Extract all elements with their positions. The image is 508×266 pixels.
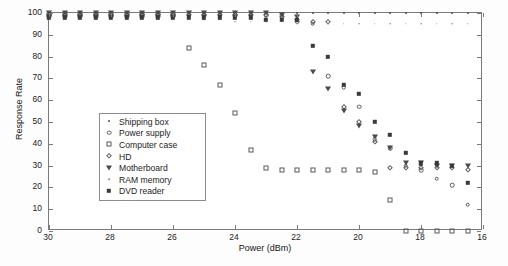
- y-tick-label: 70: [33, 72, 42, 82]
- x-tick-label: 18: [415, 232, 424, 242]
- legend-item-dvd-reader[interactable]: DVD reader: [100, 186, 205, 198]
- data-point: [451, 23, 453, 25]
- data-point: [420, 23, 422, 25]
- data-point: [436, 12, 438, 14]
- x-axis-label: Power (dBm): [48, 243, 482, 253]
- data-point: [140, 15, 144, 19]
- data-point: [234, 21, 236, 23]
- data-point: [343, 12, 345, 14]
- x-tick-label: 26: [167, 232, 176, 242]
- y-tick: [49, 57, 53, 58]
- data-point: [217, 82, 222, 87]
- y-tick-right: [477, 209, 481, 210]
- data-point: [465, 163, 471, 168]
- data-point: [372, 120, 376, 124]
- legend-item-label: Computer case: [119, 140, 177, 150]
- legend-item-power-supply[interactable]: Power supply: [100, 128, 205, 140]
- y-tick-right: [477, 187, 481, 188]
- y-tick-right: [477, 144, 481, 145]
- x-tick: [111, 225, 112, 229]
- data-point: [405, 23, 407, 25]
- data-point: [405, 12, 407, 14]
- data-point: [341, 167, 346, 172]
- x-tick: [421, 225, 422, 229]
- marker-glyph: [107, 189, 111, 193]
- marker-glyph: [108, 178, 110, 180]
- legend-item-hd[interactable]: HD: [100, 151, 205, 163]
- data-point: [124, 15, 128, 19]
- data-point: [186, 15, 190, 19]
- y-tick-right: [477, 122, 481, 123]
- x-tick-top: [173, 13, 174, 17]
- data-point: [310, 43, 314, 47]
- legend-item-ram-memory[interactable]: RAM memory: [100, 174, 205, 186]
- x-tick-top: [483, 13, 484, 17]
- y-tick-right: [477, 100, 481, 101]
- data-point: [403, 229, 408, 234]
- data-point: [248, 15, 252, 19]
- data-point: [295, 167, 300, 172]
- y-tick-right: [477, 166, 481, 167]
- data-point: [341, 83, 345, 87]
- data-point: [467, 12, 469, 14]
- x-tick-label: 30: [43, 232, 52, 242]
- x-tick-label: 28: [105, 232, 114, 242]
- data-point: [357, 91, 361, 95]
- data-point: [465, 181, 469, 185]
- data-point: [325, 87, 331, 92]
- y-tick: [49, 209, 53, 210]
- marker-glyph: [108, 120, 110, 122]
- data-point: [436, 23, 438, 25]
- data-point: [389, 23, 391, 25]
- x-tick-top: [297, 13, 298, 17]
- data-point: [312, 23, 314, 25]
- legend-item-motherboard[interactable]: Motherboard: [100, 162, 205, 174]
- y-tick: [49, 166, 53, 167]
- y-tick-right: [477, 35, 481, 36]
- y-tick-label: 60: [33, 94, 42, 104]
- data-point: [295, 17, 299, 21]
- y-tick-label: 40: [33, 138, 42, 148]
- data-point: [233, 111, 238, 116]
- dot-marker-icon: [104, 116, 118, 127]
- data-point: [296, 23, 298, 25]
- data-point: [450, 229, 455, 234]
- legend-item-computer-case[interactable]: Computer case: [100, 139, 205, 151]
- legend-item-shipping-box[interactable]: Shipping box: [100, 116, 205, 128]
- data-point: [202, 15, 206, 19]
- legend-item-label: DVD reader: [119, 186, 164, 196]
- y-tick-label: 80: [33, 51, 42, 61]
- data-point: [403, 161, 409, 166]
- marker-glyph: [107, 131, 112, 136]
- data-point: [403, 150, 407, 154]
- y-tick: [49, 35, 53, 36]
- y-tick-label: 100: [28, 7, 42, 17]
- y-tick: [49, 100, 53, 101]
- legend-item-label: HD: [119, 152, 131, 162]
- y-tick: [49, 144, 53, 145]
- data-point: [358, 23, 360, 25]
- triangle-down-marker-icon: [104, 163, 118, 174]
- x-tick-label: 22: [291, 232, 300, 242]
- plot-frame: Shipping boxPower supplyComputer caseHDM…: [48, 12, 482, 230]
- data-point: [451, 12, 453, 14]
- data-point: [327, 12, 329, 14]
- x-tick-label: 16: [477, 232, 486, 242]
- x-tick-label: 24: [229, 232, 238, 242]
- data-point: [62, 15, 66, 19]
- y-tick-right: [477, 13, 481, 14]
- data-point: [326, 74, 331, 79]
- data-point: [374, 23, 376, 25]
- legend: Shipping boxPower supplyComputer caseHDM…: [99, 113, 206, 201]
- legend-item-label: Power supply: [119, 128, 171, 138]
- data-point: [388, 198, 393, 203]
- data-point: [388, 133, 392, 137]
- data-point: [419, 161, 423, 165]
- data-point: [372, 135, 378, 140]
- data-point: [450, 183, 455, 188]
- data-point: [217, 15, 221, 19]
- x-tick: [359, 225, 360, 229]
- y-tick: [49, 122, 53, 123]
- y-tick-label: 20: [33, 181, 42, 191]
- x-tick: [49, 225, 50, 229]
